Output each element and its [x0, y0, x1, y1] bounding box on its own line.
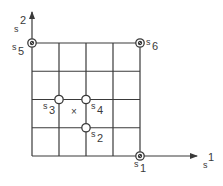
point-label-sub: 5	[18, 45, 24, 57]
x-axis-label: s 1	[203, 151, 214, 170]
point-label-base: s	[43, 101, 48, 111]
point-s6: s6	[136, 37, 158, 52]
point-label-sub: 4	[97, 104, 103, 116]
point-s4: s4	[82, 95, 103, 115]
point-label-base: s	[134, 159, 139, 169]
point-label-base: s	[146, 37, 151, 47]
lattice-diagram: s 1 s 2 s1s2s3s4s5s6 ×	[0, 0, 223, 186]
open-circle-icon	[55, 95, 63, 103]
open-circle-icon	[82, 124, 90, 132]
center-marker: ×	[71, 106, 77, 117]
point-label-sub: 6	[152, 40, 158, 52]
point-label-base: s	[91, 101, 96, 111]
point-s2: s2	[82, 124, 103, 144]
point-label-sub: 1	[140, 162, 146, 174]
y-axis-label: s 2	[14, 14, 26, 34]
points: s1s2s3s4s5s6	[12, 37, 158, 174]
y-axis-label-sup: 2	[20, 14, 26, 26]
y-axis-label-base: s	[14, 24, 19, 34]
point-label-base: s	[12, 42, 17, 52]
open-circle-icon	[82, 95, 90, 103]
point-label-sub: 2	[97, 132, 103, 144]
point-label-sub: 3	[49, 104, 55, 116]
point-label-base: s	[91, 129, 96, 139]
x-axis-label-sup: 1	[208, 151, 214, 163]
point-s3: s3	[43, 95, 63, 115]
point-s1: s1	[134, 152, 146, 174]
